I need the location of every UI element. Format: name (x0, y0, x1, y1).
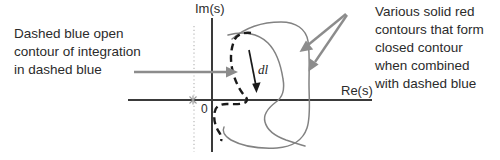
right-leader-arrow-lower (309, 15, 348, 72)
imaginary-axis-label: Im(s) (195, 1, 225, 16)
real-axis-label: Re(s) (341, 83, 373, 98)
contour-integration-figure: Dashed blue open contour of integration … (0, 0, 500, 160)
right-caption: Various solid red contours that form clo… (375, 3, 484, 93)
right-caption-line-2: contours that form (375, 21, 484, 39)
left-caption: Dashed blue open contour of integration … (14, 25, 141, 79)
dashed-open-contour (214, 33, 251, 141)
right-caption-line-5: with dashed blue (375, 75, 484, 93)
left-caption-line-2: contour of integration (14, 43, 141, 61)
right-caption-line-3: closed contour (375, 39, 484, 57)
right-caption-line-4: when combined (375, 57, 484, 75)
origin-label: 0 (201, 102, 208, 116)
right-leader-arrow-upper (300, 14, 347, 52)
left-leader-arrow (134, 67, 238, 78)
right-caption-line-1: Various solid red (375, 3, 484, 21)
left-caption-line-1: Dashed blue open (14, 25, 141, 43)
dl-label: dl (258, 62, 268, 78)
left-caption-line-3: in dashed blue (14, 61, 141, 79)
